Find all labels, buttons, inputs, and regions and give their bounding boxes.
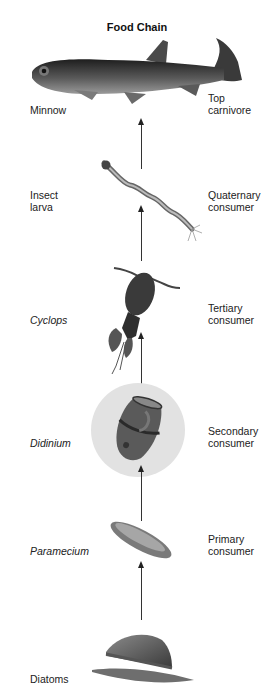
arrow-diatoms-to-paramecium: [141, 567, 142, 620]
diatom-icon: [90, 628, 196, 686]
organism-label-didinium: Didinium: [30, 437, 71, 449]
organism-label-paramecium: Paramecium: [30, 545, 89, 557]
role-label-quaternary-consumer: Quaternary consumer: [208, 189, 261, 213]
organism-label-cyclops: Cyclops: [30, 314, 67, 326]
organism-label-diatoms: Diatoms: [30, 673, 69, 685]
role-label-tertiary-consumer: Tertiary consumer: [208, 302, 254, 326]
organism-label-insect-larva: Insect larva: [30, 189, 58, 213]
paramecium-icon: [106, 518, 176, 564]
diagram-title: Food Chain: [0, 21, 274, 33]
arrow-cyclops-to-larva: [141, 211, 142, 261]
arrow-paramecium-to-didinium: [141, 471, 142, 521]
role-label-secondary-consumer: Secondary consumer: [208, 425, 258, 449]
role-label-primary-consumer: Primary consumer: [208, 533, 254, 557]
organism-label-minnow: Minnow: [30, 104, 66, 116]
copepod-icon: [88, 262, 188, 382]
role-label-top-carnivore: Top carnivore: [208, 92, 251, 116]
insect-larva-icon: [96, 153, 206, 243]
